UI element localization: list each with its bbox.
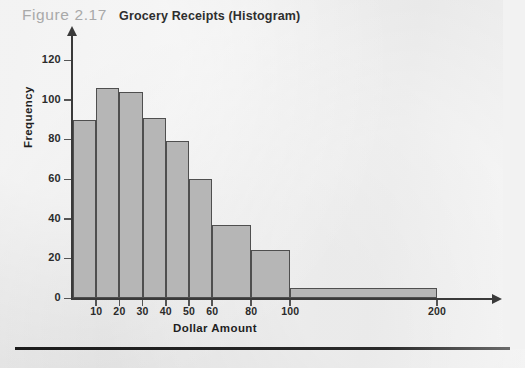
y-axis-arrow-icon	[67, 26, 77, 36]
histogram-bar	[251, 250, 290, 298]
y-axis-tick	[64, 60, 71, 62]
y-axis-tick	[64, 179, 71, 181]
figure-page: Figure 2.17Grocery Receipts (Histogram) …	[0, 0, 525, 368]
histogram-bar	[189, 179, 212, 298]
y-axis-tick-label: 60	[48, 172, 61, 184]
histogram-bar	[143, 118, 166, 298]
y-axis-tick-label: 100	[42, 93, 61, 105]
x-axis-tick-label: 100	[276, 305, 304, 317]
histogram-bar	[96, 88, 119, 298]
page-bottom-rule	[15, 347, 510, 350]
y-axis-tick-label: 0	[55, 291, 61, 303]
y-axis-tick	[64, 298, 71, 300]
y-axis-tick	[64, 139, 71, 141]
y-axis-tick-label: 80	[48, 132, 61, 144]
histogram-bar	[119, 92, 142, 298]
x-axis-tick-label: 200	[423, 305, 451, 317]
x-axis-line	[71, 298, 494, 300]
y-axis-tick	[64, 218, 71, 220]
y-axis-tick	[64, 258, 71, 260]
x-axis-label: Dollar Amount	[0, 322, 430, 334]
y-axis-tick-label: 40	[48, 212, 61, 224]
histogram-plot: 020406080100120 10203040506080100200 Fre…	[0, 0, 525, 349]
histogram-bar	[212, 225, 251, 298]
y-axis-label: Frequency	[22, 86, 34, 148]
x-axis-arrow-icon	[492, 294, 502, 304]
histogram-bar	[290, 288, 437, 298]
histogram-bar	[73, 120, 96, 299]
histogram-bar	[166, 141, 189, 298]
x-axis-tick-label: 80	[237, 305, 265, 317]
y-axis-tick	[64, 99, 71, 101]
y-axis-tick-label: 120	[42, 53, 61, 65]
y-axis-tick-label: 20	[48, 251, 61, 263]
x-axis-tick-label: 60	[198, 305, 226, 317]
